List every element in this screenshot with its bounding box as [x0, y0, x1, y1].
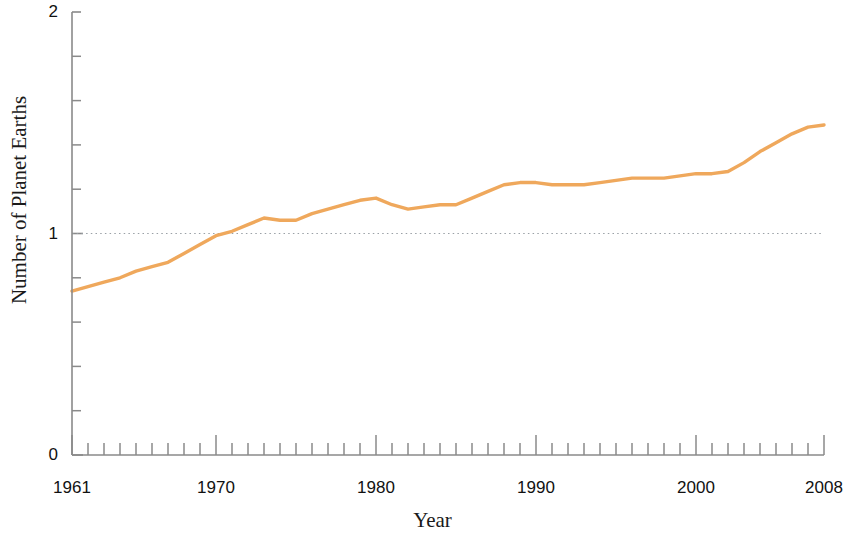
x-tick-label: 2008	[805, 478, 843, 498]
x-axis-major-ticks	[72, 435, 824, 455]
y-tick-label: 2	[26, 2, 58, 22]
y-axis-title-text: Number of Planet Earths	[7, 96, 32, 304]
x-tick-label: 1970	[197, 478, 235, 498]
data-series-line	[72, 125, 824, 291]
y-tick-label: 1	[26, 224, 58, 244]
x-tick-label: 1961	[53, 478, 91, 498]
x-axis-title-text: Year	[413, 508, 452, 532]
series-path	[72, 125, 824, 291]
x-tick-label: 1990	[517, 478, 555, 498]
y-axis-major-ticks	[72, 234, 83, 456]
x-axis-title: Year	[0, 508, 841, 533]
y-tick-label: 0	[26, 445, 58, 465]
x-axis-minor-ticks	[88, 443, 808, 455]
y-axis-title: Number of Planet Earths	[2, 40, 36, 360]
x-tick-label: 1980	[357, 478, 395, 498]
x-tick-label: 2000	[677, 478, 715, 498]
